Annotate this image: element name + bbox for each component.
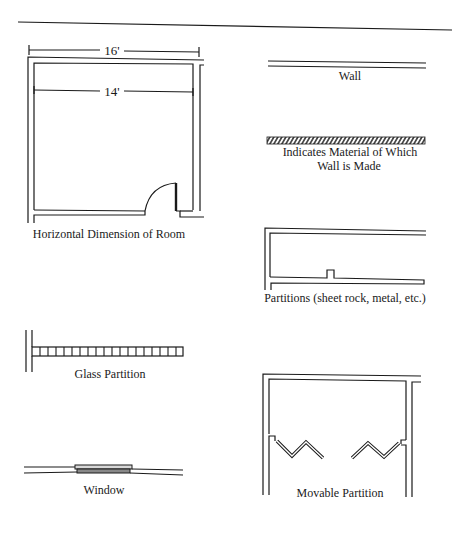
inner-dimension-line: 14' — [34, 84, 193, 99]
window-symbol: Window — [24, 465, 183, 497]
partitions-symbol: Partitions (sheet rock, metal, etc.) — [264, 228, 426, 305]
room-label: Horizontal Dimension of Room — [33, 227, 186, 241]
inner-dimension-label: 14' — [104, 84, 119, 99]
glass-partition-symbol: Glass Partition — [26, 330, 183, 381]
wall-label: Wall — [339, 69, 362, 83]
wall-material-label-line2: Wall is Made — [317, 159, 381, 173]
partitions-label: Partitions (sheet rock, metal, etc.) — [264, 291, 426, 305]
window-label: Window — [84, 483, 125, 497]
outer-dimension-label: 16' — [104, 43, 119, 58]
floor-plan-symbols-diagram: 16' 14' Horizontal Dimension of Room Wal… — [0, 0, 466, 533]
movable-partition-symbol: Movable Partition — [263, 374, 421, 500]
outer-dimension-line: 16' — [29, 43, 199, 58]
movable-partition-label: Movable Partition — [297, 486, 384, 500]
glass-partition-label: Glass Partition — [75, 367, 146, 381]
wall-material-symbol: Indicates Material of Which Wall is Made — [267, 137, 425, 173]
wall-symbol: Wall — [268, 61, 426, 83]
room-symbol: 16' 14' Horizontal Dimension of Room — [28, 43, 204, 241]
wall-material-label-line1: Indicates Material of Which — [283, 145, 418, 159]
top-rule — [18, 22, 452, 30]
